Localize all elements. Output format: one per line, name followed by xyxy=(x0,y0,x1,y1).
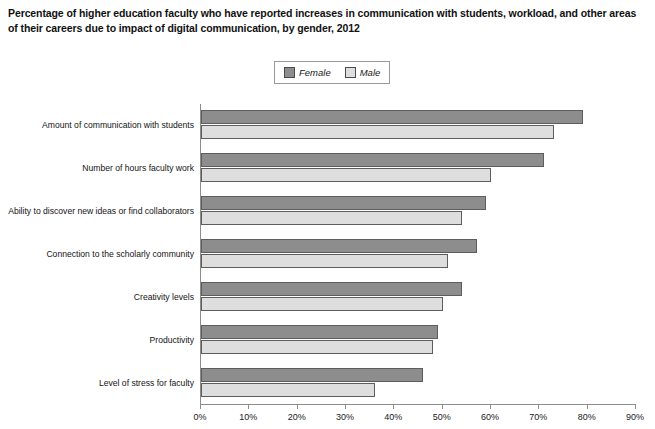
bar-male[interactable] xyxy=(201,168,491,182)
bar-female[interactable] xyxy=(201,239,477,253)
category-label: Ability to discover new ideas or find co… xyxy=(8,206,194,216)
x-axis-tick-mark xyxy=(393,404,394,409)
category-label: Productivity xyxy=(150,335,194,345)
x-axis-tick-label: 50% xyxy=(433,412,451,422)
bar-male[interactable] xyxy=(201,340,433,354)
bar-male[interactable] xyxy=(201,297,443,311)
x-axis-tick-label: 70% xyxy=(529,412,547,422)
bar-male[interactable] xyxy=(201,383,375,397)
x-axis-line xyxy=(200,404,636,405)
legend-item-female[interactable]: Female xyxy=(284,67,331,78)
x-axis-tick-mark xyxy=(442,404,443,409)
bar-female[interactable] xyxy=(201,110,583,124)
x-axis-tick-label: 10% xyxy=(239,412,257,422)
bar-group: Connection to the scholarly community xyxy=(200,239,635,269)
bar-group: Creativity levels xyxy=(200,282,635,312)
legend-label-male: Male xyxy=(360,67,381,78)
x-axis-tick-mark xyxy=(587,404,588,409)
x-axis-tick-mark xyxy=(297,404,298,409)
chart-legend: Female Male xyxy=(274,61,390,84)
bar-female[interactable] xyxy=(201,153,544,167)
bar-female[interactable] xyxy=(201,282,462,296)
bar-female[interactable] xyxy=(201,368,423,382)
x-axis-tick-mark xyxy=(200,404,201,409)
x-axis-tick-mark xyxy=(490,404,491,409)
category-label: Creativity levels xyxy=(134,292,194,302)
x-axis-tick-mark xyxy=(345,404,346,409)
bar-male[interactable] xyxy=(201,254,448,268)
bar-chart-plot-area: 0%10%20%30%40%50%60%70%80%90% Amount of … xyxy=(200,104,635,404)
legend-swatch-male-icon xyxy=(345,67,356,78)
bar-group: Amount of communication with students xyxy=(200,110,635,140)
legend-label-female: Female xyxy=(299,67,331,78)
legend-swatch-female-icon xyxy=(284,67,295,78)
x-axis-tick-label: 30% xyxy=(336,412,354,422)
bar-female[interactable] xyxy=(201,196,486,210)
page-title: Percentage of higher education faculty w… xyxy=(8,6,648,35)
category-label: Level of stress for faculty xyxy=(99,378,194,388)
bar-male[interactable] xyxy=(201,211,462,225)
bar-group: Ability to discover new ideas or find co… xyxy=(200,196,635,226)
bar-female[interactable] xyxy=(201,325,438,339)
bar-group: Productivity xyxy=(200,325,635,355)
bar-group: Number of hours faculty work xyxy=(200,153,635,183)
x-axis-tick-label: 80% xyxy=(578,412,596,422)
x-axis-tick-label: 60% xyxy=(481,412,499,422)
x-axis-tick-label: 40% xyxy=(384,412,402,422)
category-label: Connection to the scholarly community xyxy=(46,249,194,259)
legend-item-male[interactable]: Male xyxy=(345,67,381,78)
bar-group: Level of stress for faculty xyxy=(200,368,635,398)
bar-male[interactable] xyxy=(201,125,554,139)
x-axis-tick-label: 90% xyxy=(626,412,644,422)
category-label: Amount of communication with students xyxy=(42,120,194,130)
x-axis-tick-label: 0% xyxy=(193,412,206,422)
x-axis-tick-label: 20% xyxy=(288,412,306,422)
x-axis-tick-mark xyxy=(538,404,539,409)
category-label: Number of hours faculty work xyxy=(82,163,194,173)
x-axis-tick-mark xyxy=(635,404,636,409)
x-axis-tick-mark xyxy=(248,404,249,409)
